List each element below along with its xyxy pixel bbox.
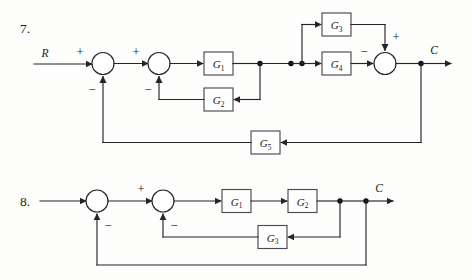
sign-sum2-feedback-p8: −	[170, 219, 177, 233]
sign-sum2-input: +	[132, 45, 139, 59]
problem-7-number: 7.	[20, 21, 30, 36]
problem-7-input-label: R	[40, 47, 48, 59]
sign-sum3-top: +	[392, 30, 399, 44]
summing-junction-2	[148, 53, 170, 75]
sign-sum1-input: +	[76, 45, 83, 59]
problem-8-group: 8. − + − G1 G2 C	[20, 182, 393, 265]
problem-8-output-label: C	[375, 182, 383, 194]
sign-sum2-feedback: −	[144, 83, 151, 97]
summing-junction-2-p8	[152, 190, 174, 212]
problem-7-output-label: C	[430, 44, 438, 56]
summing-junction-3	[374, 53, 396, 75]
sign-sum1-feedback-p8: −	[104, 219, 111, 233]
sign-sum2-input-p8: +	[137, 182, 144, 196]
problem-8-number: 8.	[20, 194, 30, 209]
summing-junction-1	[92, 53, 114, 75]
block-diagram-figure: 7. R + − + − G1 G2	[0, 0, 472, 280]
sign-sum3-left: −	[360, 45, 367, 59]
problem-7-group: 7. R + − + − G1 G2	[20, 13, 451, 154]
summing-junction-1-p8	[86, 190, 108, 212]
sign-sum1-feedback: −	[88, 83, 95, 97]
